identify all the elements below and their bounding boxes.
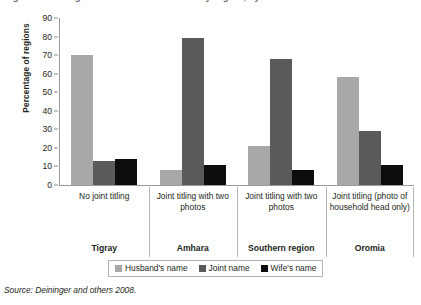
y-tick-label: 50 xyxy=(26,87,52,97)
y-tick-label: 10 xyxy=(26,161,52,171)
bar xyxy=(248,146,270,185)
legend-swatch-icon xyxy=(199,265,206,272)
bar xyxy=(71,55,93,185)
category-title: No joint titling xyxy=(60,191,149,202)
legend-swatch-icon xyxy=(261,265,268,272)
chart-figure: Percentage of regions 010203040506070809… xyxy=(0,7,421,279)
y-tick-label: 70 xyxy=(26,50,52,60)
source-note: Source: Deininger and others 2008. xyxy=(4,285,136,295)
bar-group xyxy=(237,18,326,185)
chart-legend: Husband's nameJoint nameWife's name xyxy=(108,260,323,277)
bar-group xyxy=(149,18,238,185)
legend-swatch-icon xyxy=(115,265,122,272)
y-tick-label: 30 xyxy=(26,124,52,134)
category-label-row: No joint titlingTigrayJoint titling with… xyxy=(60,187,414,257)
y-tick-label: 0 xyxy=(26,180,52,190)
bar xyxy=(292,170,314,185)
x-axis-line xyxy=(59,185,414,186)
category-title: Joint titling (photo of household head o… xyxy=(326,191,415,213)
category-region-name: Amhara xyxy=(149,243,238,253)
bar-group xyxy=(60,18,149,185)
y-tick-mark xyxy=(54,18,58,19)
category-cell: Joint titling with two photosAmhara xyxy=(149,187,238,257)
category-title: Joint titling with two photos xyxy=(149,191,238,213)
bar-group xyxy=(326,18,415,185)
bar xyxy=(337,77,359,185)
y-tick-mark xyxy=(54,110,58,111)
legend-label: Husband's name xyxy=(125,263,188,273)
category-title: Joint titling with two photos xyxy=(237,191,326,213)
bar xyxy=(204,165,226,185)
y-tick-mark xyxy=(54,185,58,186)
legend-label: Joint name xyxy=(209,263,250,273)
y-tick-label: 20 xyxy=(26,143,52,153)
y-tick-mark xyxy=(54,147,58,148)
bar xyxy=(93,161,115,185)
figure-title-strip: Figure: Land registration and certificat… xyxy=(0,0,421,7)
bar xyxy=(381,165,403,185)
y-tick-mark xyxy=(54,73,58,74)
figure-title: Figure: Land registration and certificat… xyxy=(4,0,380,2)
category-row-right-border xyxy=(413,187,414,257)
bar xyxy=(160,170,182,185)
y-tick-mark xyxy=(54,55,58,56)
bar xyxy=(270,59,292,185)
category-cell: Joint titling with two photosSouthern re… xyxy=(237,187,326,257)
bar xyxy=(182,38,204,185)
bar xyxy=(359,131,381,185)
category-region-name: Tigray xyxy=(60,243,149,253)
y-tick-label: 80 xyxy=(26,32,52,42)
y-tick-label: 40 xyxy=(26,106,52,116)
y-tick-label: 90 xyxy=(26,13,52,23)
bar xyxy=(115,159,137,185)
y-tick-mark xyxy=(54,129,58,130)
legend-item: Wife's name xyxy=(261,263,317,273)
category-cell: No joint titlingTigray xyxy=(60,187,149,257)
y-tick-mark xyxy=(54,36,58,37)
y-axis-ticks: 0102030405060708090 xyxy=(22,18,60,185)
y-tick-mark xyxy=(54,92,58,93)
category-region-name: Oromia xyxy=(326,243,415,253)
legend-label: Wife's name xyxy=(271,263,317,273)
y-tick-label: 60 xyxy=(26,69,52,79)
category-cell: Joint titling (photo of household head o… xyxy=(326,187,415,257)
legend-item: Husband's name xyxy=(115,263,188,273)
plot-area xyxy=(60,18,414,185)
category-region-name: Southern region xyxy=(237,243,326,253)
legend-item: Joint name xyxy=(199,263,250,273)
y-tick-mark xyxy=(54,166,58,167)
